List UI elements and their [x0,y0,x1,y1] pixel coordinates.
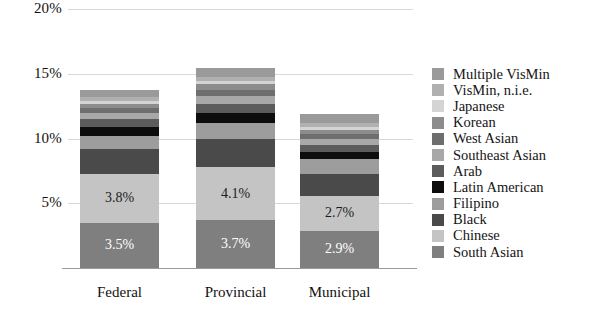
bar-segment-black[interactable] [80,149,159,174]
bar-segment-multiple-vismin[interactable] [80,90,159,98]
y-tick: 20% [0,1,62,16]
legend-item-southeast-asian[interactable]: Southeast Asian [432,147,590,163]
bar-segment-chinese[interactable]: 3.8% [80,174,159,223]
bar-segment-south-asian[interactable]: 2.9% [300,231,379,268]
legend-label: Korean [453,115,496,130]
bar-segment-latin-american[interactable] [300,152,379,160]
legend-label: Latin American [453,180,544,195]
legend-label: West Asian [453,131,518,146]
legend-item-west-asian[interactable]: West Asian [432,131,590,147]
y-tick: 10% [0,131,62,146]
legend-item-south-asian[interactable]: South Asian [432,244,590,260]
legend-swatch-icon [432,214,444,226]
legend-swatch-icon [432,84,444,96]
legend-swatch-icon [432,117,444,129]
plot-area: 20%15%10%5% 3.8%3.5%4.1%3.7%2.7%2.9% Fed… [0,0,420,314]
y-tick-label: 5% [4,195,62,210]
bar-segment-arab[interactable] [80,119,159,127]
y-tick-label: 15% [4,66,62,81]
legend-swatch-icon [432,230,444,242]
legend-swatch-icon [432,181,444,193]
bar-provincial[interactable]: 4.1%3.7% [196,68,275,268]
legend-label: Black [453,212,487,227]
legend-swatch-icon [432,165,444,177]
gridline-20 [68,9,413,10]
legend-item-vismin-n-i-e[interactable]: VisMin, n.i.e. [432,82,590,98]
legend-item-latin-american[interactable]: Latin American [432,179,590,195]
x-axis-baseline [62,268,417,269]
legend-label: VisMin, n.i.e. [453,83,532,98]
y-tick: 15% [0,66,62,81]
bar-segment-latin-american[interactable] [80,127,159,136]
y-tick-label: 20% [4,1,62,16]
legend-item-black[interactable]: Black [432,212,590,228]
legend-swatch-icon [432,149,444,161]
bar-municipal[interactable]: 2.7%2.9% [300,114,379,268]
bar-segment-black[interactable] [300,174,379,196]
legend-swatch-icon [432,68,444,80]
legend-label: Southeast Asian [453,148,546,163]
bar-segment-filipino[interactable] [80,136,159,149]
bar-segment-arab[interactable] [196,104,275,113]
legend-label: Chinese [453,228,500,243]
x-tick-label-federal: Federal [60,284,180,300]
bar-segment-black[interactable] [196,139,275,167]
bar-federal[interactable]: 3.8%3.5% [80,90,159,268]
bar-segment-multiple-vismin[interactable] [300,114,379,123]
bar-segment-value-label: 4.1% [196,187,275,201]
x-tick-label-provincial: Provincial [176,284,296,300]
legend-item-korean[interactable]: Korean [432,115,590,131]
bar-segment-filipino[interactable] [300,159,379,173]
legend-swatch-icon [432,246,444,258]
legend-label: Multiple VisMin [453,67,550,82]
legend-item-filipino[interactable]: Filipino [432,196,590,212]
chart-legend: Multiple VisMinVisMin, n.i.e.JapaneseKor… [432,66,590,260]
x-tick-label-municipal: Municipal [280,284,400,300]
legend-label: South Asian [453,245,524,260]
stacked-bar-chart: 20%15%10%5% 3.8%3.5%4.1%3.7%2.7%2.9% Fed… [0,0,593,314]
bar-segment-value-label: 2.9% [300,242,379,256]
bar-segment-south-asian[interactable]: 3.5% [80,223,159,268]
bar-segment-value-label: 3.7% [196,237,275,251]
bar-segment-chinese[interactable]: 4.1% [196,167,275,220]
legend-label: Filipino [453,196,499,211]
bar-segment-chinese[interactable]: 2.7% [300,196,379,231]
bar-segment-south-asian[interactable]: 3.7% [196,220,275,268]
legend-label: Japanese [453,99,505,114]
bar-segment-multiple-vismin[interactable] [196,68,275,77]
legend-item-arab[interactable]: Arab [432,163,590,179]
bar-segment-value-label: 3.5% [80,238,159,252]
legend-swatch-icon [432,100,444,112]
legend-item-chinese[interactable]: Chinese [432,228,590,244]
y-tick: 5% [0,195,62,210]
y-tick-label: 10% [4,131,62,146]
bar-segment-filipino[interactable] [196,123,275,139]
legend-item-multiple-vismin[interactable]: Multiple VisMin [432,66,590,82]
bar-segment-southeast-asian[interactable] [196,96,275,104]
legend-item-japanese[interactable]: Japanese [432,98,590,114]
legend-swatch-icon [432,133,444,145]
bar-segment-value-label: 2.7% [300,206,379,220]
legend-swatch-icon [432,198,444,210]
bar-segment-latin-american[interactable] [196,113,275,123]
legend-label: Arab [453,164,482,179]
bar-segment-value-label: 3.8% [80,191,159,205]
